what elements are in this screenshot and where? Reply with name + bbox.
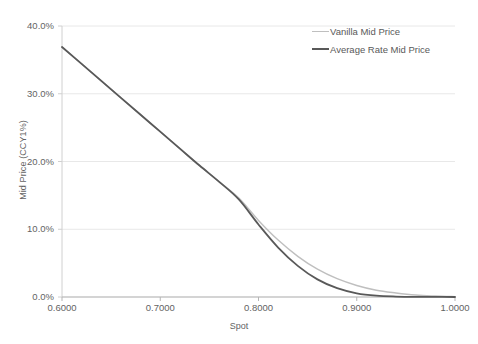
legend-entry-average-rate: Average Rate Mid Price	[312, 40, 430, 58]
legend-label-average-rate: Average Rate Mid Price	[329, 44, 430, 55]
legend-label-vanilla: Vanilla Mid Price	[329, 26, 400, 37]
axis-ticks	[58, 26, 455, 301]
series-line-vanilla	[62, 47, 455, 297]
data-series	[62, 47, 455, 297]
chart-container: Mid Price (CCY1%) 0.0%10.0%20.0%30.0%40.…	[0, 0, 478, 344]
legend-swatch-vanilla	[312, 31, 329, 32]
legend-entry-vanilla: Vanilla Mid Price	[312, 22, 430, 40]
chart-legend: Vanilla Mid Price Average Rate Mid Price	[312, 22, 430, 58]
gridlines	[62, 26, 455, 297]
legend-swatch-average-rate	[312, 48, 329, 50]
series-line-average-rate	[62, 47, 455, 297]
